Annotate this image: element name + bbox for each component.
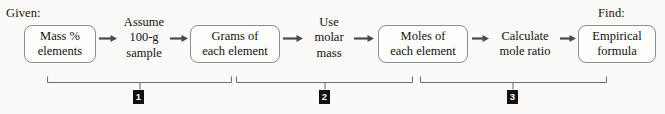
arrow-5-icon: [472, 33, 489, 44]
step-assume-100g-sample: Assume100-gsample: [119, 15, 169, 61]
box-label-line: formula: [592, 44, 641, 59]
box-label-line: each element: [390, 44, 456, 59]
bracket-2-marker: 2: [319, 90, 330, 104]
box-label: Grams ofeach element: [202, 29, 268, 60]
box-label-line: Empirical: [592, 29, 641, 44]
box-label-line: Grams of: [202, 29, 268, 44]
box-moles-each-element: Moles ofeach element: [378, 25, 468, 63]
step-calculate-mole-ratio: Calculatemole ratio: [492, 29, 558, 60]
find-caption: Find:: [598, 6, 625, 21]
box-label-line: Mass %: [38, 29, 82, 44]
given-caption: Given:: [6, 6, 41, 21]
step-label-line: 100-g: [119, 30, 169, 45]
arrow-2-icon: [170, 33, 188, 44]
arrow-1-icon: [99, 33, 117, 44]
box-empirical-formula: Empiricalformula: [578, 25, 656, 63]
step-label-line: molar: [307, 30, 351, 45]
box-label-line: each element: [202, 44, 268, 59]
box-label-line: elements: [38, 44, 82, 59]
box-label: Moles ofeach element: [390, 29, 456, 60]
arrow-3-icon: [283, 33, 303, 44]
bracket-1-marker: 1: [133, 90, 144, 104]
arrow-6-icon: [560, 33, 576, 44]
step-label-line: Calculate: [492, 29, 558, 44]
box-label: Mass %elements: [38, 29, 82, 60]
box-label-line: Moles of: [390, 29, 456, 44]
step-use-molar-mass: Usemolarmass: [307, 15, 351, 61]
arrow-4-icon: [354, 33, 374, 44]
step-label-line: mole ratio: [492, 44, 558, 59]
step-label-line: mass: [307, 46, 351, 61]
box-mass-percent-elements: Mass %elements: [24, 25, 96, 63]
step-label-line: sample: [119, 46, 169, 61]
box-grams-each-element: Grams ofeach element: [190, 25, 280, 63]
step-label-line: Use: [307, 15, 351, 30]
box-label: Empiricalformula: [592, 29, 641, 60]
bracket-3-marker: 3: [507, 90, 518, 104]
flowchart-diagram: Given:Find:Mass %elementsGrams ofeach el…: [0, 0, 665, 114]
step-label-line: Assume: [119, 15, 169, 30]
